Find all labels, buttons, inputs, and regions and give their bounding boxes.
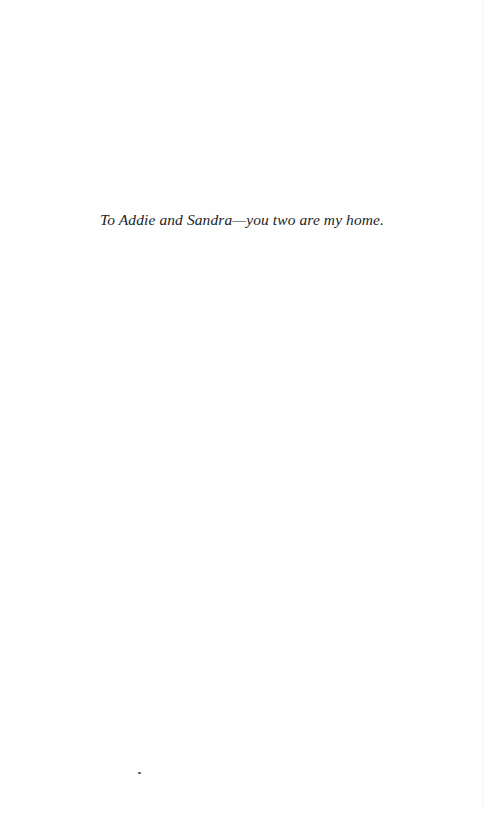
scan-speck <box>138 772 141 774</box>
dedication-text: To Addie and Sandra—you two are my home. <box>0 209 484 231</box>
book-page: To Addie and Sandra—you two are my home. <box>0 0 484 813</box>
